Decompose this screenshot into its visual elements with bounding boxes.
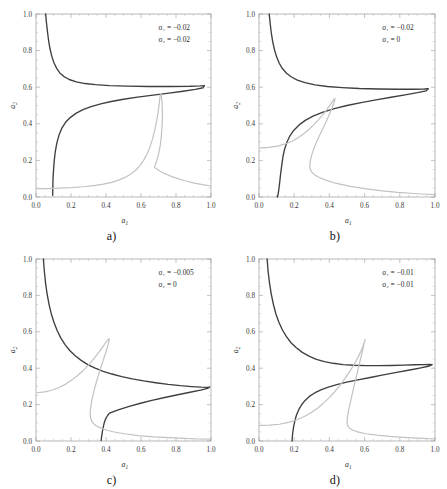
plot-area-b: 0.00.20.40.60.81.00.00.20.40.60.81.0a1a2… [223, 0, 447, 245]
light-resonance-curve [37, 339, 211, 439]
x-tick-label: 0.8 [172, 446, 181, 454]
panel-a: 0.00.20.40.60.81.00.00.20.40.60.81.0a1a2… [0, 0, 223, 245]
annotation-sigma-2: σ₂ = −0.01 [382, 280, 414, 289]
y-tick-label: 0.6 [246, 328, 255, 336]
y-tick-label: 0.4 [23, 365, 32, 373]
plot-svg-d: 0.00.20.40.60.81.00.00.20.40.60.81.0a1a2… [223, 245, 447, 489]
x-tick-label: 0.4 [325, 446, 334, 454]
panel-c: 0.00.20.40.60.81.00.00.20.40.60.81.0a1a2… [0, 245, 223, 489]
y-tick-label: 0.0 [23, 438, 32, 446]
y-tick-label: 0.2 [23, 157, 32, 165]
x-tick-label: 0.4 [325, 202, 334, 210]
x-axis-title-sub: 1 [349, 464, 352, 470]
y-axis-title-text: a2 [231, 102, 241, 109]
plot-area-c: 0.00.20.40.60.81.00.00.20.40.60.81.0a1a2… [0, 245, 223, 489]
x-axis-title: a1 [122, 216, 129, 226]
x-tick-label: 1.0 [207, 446, 216, 454]
x-tick-label: 0.6 [137, 446, 146, 454]
y-axis-title-text: a2 [8, 102, 18, 109]
x-axis-title-text: a1 [122, 216, 129, 226]
panel-b: 0.00.20.40.60.81.00.00.20.40.60.81.0a1a2… [223, 0, 447, 245]
annotation-sigma-1: σ₁ = −0.005 [159, 268, 195, 277]
y-tick-label: 0.6 [23, 328, 32, 336]
plot-area-d: 0.00.20.40.60.81.00.00.20.40.60.81.0a1a2… [223, 245, 447, 489]
plot-svg-a: 0.00.20.40.60.81.00.00.20.40.60.81.0a1a2… [0, 0, 223, 245]
y-tick-label: 1.0 [246, 11, 255, 19]
y-tick-label: 0.8 [246, 292, 255, 300]
x-axis-title: a1 [345, 460, 352, 470]
x-axis-title-sub: 1 [125, 220, 128, 226]
x-tick-label: 0.8 [172, 202, 181, 210]
x-tick-label: 0.4 [102, 446, 111, 454]
x-axis-title-text: a1 [345, 460, 352, 470]
panel-caption-a: a) [0, 229, 223, 244]
dark-resonance-curve [269, 14, 428, 197]
y-tick-label: 0.2 [23, 401, 32, 409]
x-tick-label: 0.2 [67, 202, 76, 210]
y-tick-label: 0.4 [246, 120, 255, 128]
x-tick-label: 1.0 [431, 446, 440, 454]
y-tick-label: 1.0 [23, 256, 32, 264]
y-tick-label: 0.8 [246, 47, 255, 55]
y-axis-title: a2 [231, 346, 241, 353]
figure-four-panel-resonance-curves: 0.00.20.40.60.81.00.00.20.40.60.81.0a1a2… [0, 0, 447, 489]
y-tick-label: 1.0 [23, 11, 32, 19]
y-tick-label: 0.0 [246, 194, 255, 202]
x-axis-title-sub: 1 [349, 220, 352, 226]
x-tick-label: 0.0 [255, 202, 264, 210]
panel-caption-d: d) [223, 473, 447, 488]
x-axis-title-sub: 1 [125, 464, 128, 470]
plot-area-a: 0.00.20.40.60.81.00.00.20.40.60.81.0a1a2… [0, 0, 223, 245]
light-resonance-curve [37, 94, 211, 189]
annotation-sigma-1: σ₁ = −0.02 [159, 23, 191, 32]
x-tick-label: 0.4 [102, 202, 111, 210]
annotation-sigma-1: σ₁ = −0.01 [382, 268, 414, 277]
y-tick-label: 0.8 [23, 292, 32, 300]
panel-caption-b: b) [223, 229, 447, 244]
annotation-sigma-2: σ₂ = 0 [159, 280, 177, 289]
y-axis-title: a2 [8, 102, 18, 109]
annotation-sigma-2: σ₂ = −0.02 [159, 35, 191, 44]
x-axis-title-text: a1 [122, 460, 129, 470]
y-tick-label: 0.2 [246, 401, 255, 409]
y-axis-title-sub: 2 [12, 346, 18, 349]
x-axis-title: a1 [122, 460, 129, 470]
dark-resonance-curve [43, 259, 209, 441]
y-tick-label: 0.0 [246, 438, 255, 446]
annotation-sigma-2: σ₂ = 0 [382, 35, 400, 44]
y-tick-label: 1.0 [246, 256, 255, 264]
x-tick-label: 0.6 [360, 202, 369, 210]
y-axis-title-sub: 2 [235, 102, 241, 105]
x-tick-label: 0.0 [255, 446, 264, 454]
plot-svg-c: 0.00.20.40.60.81.00.00.20.40.60.81.0a1a2… [0, 245, 223, 489]
y-tick-label: 0.6 [23, 84, 32, 92]
light-resonance-curve [260, 339, 435, 438]
x-axis-title: a1 [345, 216, 352, 226]
panel-caption-c: c) [0, 473, 223, 488]
y-tick-label: 0.4 [23, 120, 32, 128]
y-axis-title-text: a2 [8, 346, 18, 353]
x-tick-label: 0.8 [395, 446, 404, 454]
y-tick-label: 0.8 [23, 47, 32, 55]
x-tick-label: 0.6 [360, 446, 369, 454]
x-tick-label: 0.0 [32, 446, 41, 454]
x-tick-label: 0.8 [395, 202, 404, 210]
x-axis-title-text: a1 [345, 216, 352, 226]
y-tick-label: 0.0 [23, 194, 32, 202]
panel-d: 0.00.20.40.60.81.00.00.20.40.60.81.0a1a2… [223, 245, 447, 489]
y-axis-title-sub: 2 [235, 346, 241, 349]
y-tick-label: 0.2 [246, 157, 255, 165]
x-tick-label: 0.2 [67, 446, 76, 454]
plot-svg-b: 0.00.20.40.60.81.00.00.20.40.60.81.0a1a2… [223, 0, 447, 245]
x-tick-label: 0.0 [32, 202, 41, 210]
x-tick-label: 0.2 [290, 202, 299, 210]
y-axis-title-sub: 2 [12, 102, 18, 105]
annotation-sigma-1: σ₁ = −0.02 [382, 23, 414, 32]
x-tick-label: 1.0 [431, 202, 440, 210]
y-axis-title-text: a2 [231, 346, 241, 353]
y-axis-title: a2 [8, 346, 18, 353]
x-tick-label: 1.0 [207, 202, 216, 210]
y-tick-label: 0.6 [246, 84, 255, 92]
x-tick-label: 0.6 [137, 202, 146, 210]
plot-frame [36, 259, 211, 441]
